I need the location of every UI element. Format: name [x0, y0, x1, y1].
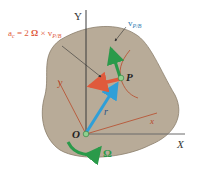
- label-y: y: [57, 77, 63, 88]
- label-O: O: [72, 128, 80, 140]
- label-x: x: [149, 116, 154, 126]
- coriolis-diagram: Y X x y O P r Ω vP/B ac = 2 Ω × vP/B: [0, 0, 198, 175]
- point-O: [83, 131, 89, 137]
- label-P: P: [126, 71, 133, 83]
- label-X: X: [176, 138, 185, 150]
- label-omega: Ω: [103, 147, 112, 159]
- label-coriolis-equation: ac = 2 Ω × vP/B: [8, 28, 62, 39]
- label-Y: Y: [74, 10, 82, 22]
- label-r: r: [104, 106, 108, 117]
- label-relative-velocity: vP/B: [128, 18, 142, 29]
- point-P: [118, 75, 124, 81]
